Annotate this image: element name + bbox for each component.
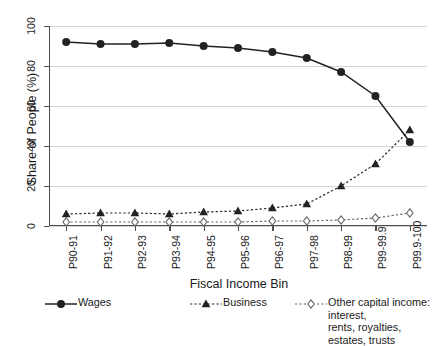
data-point [200, 218, 207, 226]
x-tick-label: P99-99.9 [369, 233, 381, 247]
x-tick-label: P92-93 [129, 233, 141, 247]
data-point [372, 214, 379, 222]
data-point [132, 218, 139, 226]
x-tick-label: P93-94 [163, 233, 175, 247]
legend-item[interactable]: Other capital income: interest, rents, r… [294, 296, 434, 346]
data-point [199, 207, 208, 215]
data-point [337, 68, 345, 76]
data-point [405, 125, 414, 133]
series-line [66, 42, 410, 142]
legend-marker-icon [189, 297, 223, 311]
data-point [371, 159, 380, 167]
x-tick-label: P90-91 [60, 233, 72, 247]
data-point [268, 48, 276, 56]
x-tick-label: P97-98 [301, 233, 313, 247]
data-point [234, 206, 243, 214]
data-point [268, 203, 277, 211]
data-point [63, 218, 70, 226]
y-tick-label: 60 [19, 97, 43, 115]
data-point [131, 208, 140, 216]
data-point [338, 216, 345, 224]
x-tick-label: P98-99 [335, 233, 347, 247]
legend-marker-icon [294, 297, 328, 311]
data-point [269, 217, 276, 225]
data-point [131, 40, 139, 48]
data-point [303, 54, 311, 62]
x-tick-label: P96-97 [266, 233, 278, 247]
data-point [303, 217, 310, 225]
y-tick-label: 40 [19, 137, 43, 155]
y-tick-label: 20 [19, 177, 43, 195]
data-point [97, 218, 104, 226]
series-line [66, 130, 410, 214]
series-wages [62, 38, 414, 146]
data-point [166, 218, 173, 226]
data-point [234, 44, 242, 52]
data-point [62, 38, 70, 46]
legend-label: Other capital income: interest, rents, r… [328, 296, 434, 346]
data-point [337, 181, 346, 189]
x-tick-label: P95-96 [232, 233, 244, 247]
y-tick-label: 80 [19, 57, 43, 75]
data-point [165, 39, 173, 47]
data-point [97, 40, 105, 48]
legend-item[interactable]: Wages [44, 296, 111, 311]
legend-marker-icon [44, 297, 78, 311]
data-point [406, 138, 414, 146]
data-point [371, 92, 379, 100]
y-tick-label: 0 [19, 217, 43, 235]
x-tick-label: P94-95 [198, 233, 210, 247]
data-point [200, 42, 208, 50]
data-point [235, 218, 242, 226]
legend-label: Business [223, 296, 267, 309]
series-business [62, 125, 414, 217]
series-layer [49, 26, 427, 226]
x-tick-label: P99.9-100 [404, 233, 416, 247]
data-point [62, 209, 71, 217]
data-point [302, 199, 311, 207]
chart-legend: WagesBusinessOther capital income: inter… [44, 296, 434, 326]
data-point [407, 209, 414, 217]
plot-area: 020406080100 P90-91P91-92P92-93P93-94P94… [49, 26, 427, 226]
x-axis-title: Fiscal Income Bin [49, 277, 429, 291]
x-tick-label: P91-92 [95, 233, 107, 247]
legend-label: Wages [78, 296, 111, 309]
y-tick-label: 100 [19, 17, 43, 35]
legend-item[interactable]: Business [189, 296, 267, 311]
y-tick-mark [44, 226, 49, 227]
data-point [96, 208, 105, 216]
